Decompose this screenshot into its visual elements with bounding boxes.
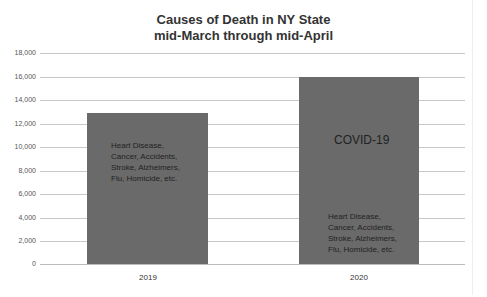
y-tick-16000: 16,000 <box>0 73 36 80</box>
annotation-line: Cancer, Accidents, <box>328 222 397 233</box>
bar-2020-annotation: Heart Disease, Cancer, Accidents, Stroke… <box>328 211 397 255</box>
annotation-line: Heart Disease, <box>111 140 180 151</box>
y-tick-12000: 12,000 <box>0 120 36 127</box>
y-tick-14000: 14,000 <box>0 96 36 103</box>
x-tick-2020: 2020 <box>329 273 389 282</box>
y-tick-8000: 8,000 <box>0 167 36 174</box>
y-tick-2000: 2,000 <box>0 237 36 244</box>
bar-2019-annotation: Heart Disease, Cancer, Accidents, Stroke… <box>111 140 180 184</box>
x-tick-2019: 2019 <box>118 273 178 282</box>
y-tick-18000: 18,000 <box>0 49 36 56</box>
x-axis-line <box>40 264 465 265</box>
y-tick-6000: 6,000 <box>0 190 36 197</box>
annotation-line: Cancer, Accidents, <box>111 151 180 162</box>
annotation-line: Heart Disease, <box>328 211 397 222</box>
chart-subtitle: mid-March through mid-April <box>0 28 487 43</box>
y-tick-4000: 4,000 <box>0 214 36 221</box>
bar-2019 <box>87 113 208 264</box>
annotation-line: Flu, Homicide, etc. <box>111 173 180 184</box>
annotation-line: Flu, Homicide, etc. <box>328 244 397 255</box>
annotation-line: Stroke, Alzheimers, <box>328 233 397 244</box>
y-tick-0: 0 <box>0 260 36 267</box>
annotation-line: Stroke, Alzheimers, <box>111 162 180 173</box>
chart-title: Causes of Death in NY State <box>0 12 487 27</box>
gridline <box>40 53 465 54</box>
covid-annotation: COVID-19 <box>334 133 389 147</box>
y-tick-10000: 10,000 <box>0 143 36 150</box>
